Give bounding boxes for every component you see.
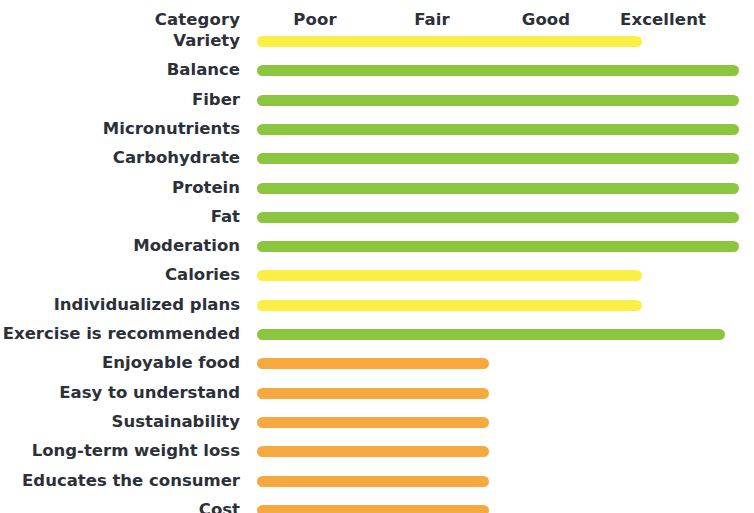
bar-moderation xyxy=(257,241,739,252)
row-label-enjoyable-food: Enjoyable food xyxy=(0,352,240,374)
row-label-moderation: Moderation xyxy=(0,235,240,257)
chart-row: Individualized plans xyxy=(0,294,754,320)
row-label-exercise-is-recommended: Exercise is recommended xyxy=(0,323,240,345)
bar-variety xyxy=(257,36,642,47)
rating-chart: Category Poor Fair Good Excellent Variet… xyxy=(0,0,754,513)
chart-row: Calories xyxy=(0,264,754,290)
bar-fat xyxy=(257,212,739,223)
bar-cost xyxy=(257,505,489,513)
row-label-fat: Fat xyxy=(0,206,240,228)
row-label-long-term-weight-loss: Long-term weight loss xyxy=(0,440,240,462)
chart-row: Fat xyxy=(0,206,754,232)
chart-row: Variety xyxy=(0,30,754,56)
bar-individualized-plans xyxy=(257,300,642,311)
chart-row: Educates the consumer xyxy=(0,470,754,496)
row-label-easy-to-understand: Easy to understand xyxy=(0,382,240,404)
row-label-balance: Balance xyxy=(0,59,240,81)
bar-carbohydrate xyxy=(257,153,739,164)
chart-rows: VarietyBalanceFiberMicronutrientsCarbohy… xyxy=(0,0,754,513)
row-label-educates-the-consumer: Educates the consumer xyxy=(0,470,240,492)
row-label-micronutrients: Micronutrients xyxy=(0,118,240,140)
bar-calories xyxy=(257,270,642,281)
bar-protein xyxy=(257,183,739,194)
bar-balance xyxy=(257,65,739,76)
chart-row: Exercise is recommended xyxy=(0,323,754,349)
bar-exercise-is-recommended xyxy=(257,329,725,340)
chart-row: Micronutrients xyxy=(0,118,754,144)
row-label-individualized-plans: Individualized plans xyxy=(0,294,240,316)
row-label-fiber: Fiber xyxy=(0,89,240,111)
bar-easy-to-understand xyxy=(257,388,489,399)
chart-row: Moderation xyxy=(0,235,754,261)
chart-row: Balance xyxy=(0,59,754,85)
bar-educates-the-consumer xyxy=(257,476,489,487)
row-label-calories: Calories xyxy=(0,264,240,286)
row-label-protein: Protein xyxy=(0,177,240,199)
row-label-sustainability: Sustainability xyxy=(0,411,240,433)
row-label-cost: Cost xyxy=(0,499,240,513)
chart-row: Protein xyxy=(0,177,754,203)
bar-long-term-weight-loss xyxy=(257,446,489,457)
chart-row: Carbohydrate xyxy=(0,147,754,173)
chart-row: Enjoyable food xyxy=(0,352,754,378)
chart-row: Long-term weight loss xyxy=(0,440,754,466)
bar-fiber xyxy=(257,95,739,106)
chart-row: Fiber xyxy=(0,89,754,115)
bar-enjoyable-food xyxy=(257,358,489,369)
chart-row: Cost xyxy=(0,499,754,513)
row-label-carbohydrate: Carbohydrate xyxy=(0,147,240,169)
bar-sustainability xyxy=(257,417,489,428)
chart-row: Sustainability xyxy=(0,411,754,437)
row-label-variety: Variety xyxy=(0,30,240,52)
bar-micronutrients xyxy=(257,124,739,135)
chart-row: Easy to understand xyxy=(0,382,754,408)
